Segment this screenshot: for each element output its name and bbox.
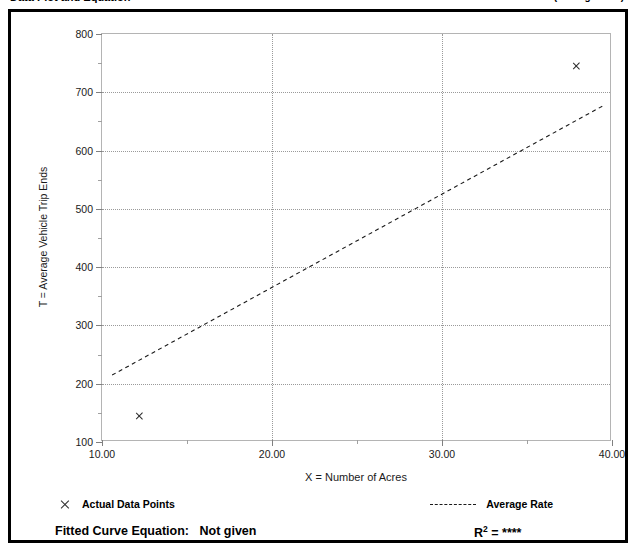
legend-item-average-rate: Average Rate [430, 498, 553, 510]
x-axis-tick-label: 20.00 [259, 448, 285, 460]
y-axis-tick-label: 500 [75, 203, 93, 215]
y-axis-tick-label: 100 [75, 436, 93, 448]
plot-area: 100200300400500600700800 10.0020.0030.00… [101, 33, 611, 441]
chart-frame: T = Average Vehicle Trip Ends 1002003004… [8, 9, 628, 543]
x-axis-label: X = Number of Acres [101, 471, 611, 483]
r-squared-prefix: R [474, 526, 483, 540]
x-axis-tick-label: 30.00 [429, 448, 455, 460]
x-axis-tick-label: 10.00 [89, 448, 115, 460]
y-axis-tick-label: 800 [75, 28, 93, 40]
x-axis-tick [272, 440, 273, 446]
chart-footer: Fitted Curve Equation: Not given R2 = **… [11, 524, 625, 546]
x-axis-minor-tick [357, 440, 358, 444]
average-rate-trendline [102, 34, 610, 440]
dashed-line-icon [430, 504, 476, 505]
fitted-curve-equation-value: Not given [199, 524, 256, 538]
x-axis-minor-tick [187, 440, 188, 444]
r-squared-number: = **** [491, 526, 521, 540]
x-axis-tick-label: 40.00 [599, 448, 625, 460]
x-axis-tick [442, 440, 443, 446]
legend-label-actual-data-points: Actual Data Points [82, 498, 175, 510]
legend-label-average-rate: Average Rate [486, 498, 553, 510]
y-axis-tick-label: 600 [75, 145, 93, 157]
x-axis-tick [612, 440, 613, 446]
chart-legend: Actual Data Points Average Rate [11, 498, 625, 522]
y-axis-tick-label: 700 [75, 86, 93, 98]
x-marker-icon [59, 499, 70, 510]
y-axis-tick-label: 400 [75, 261, 93, 273]
r-squared-value: R2 = **** [474, 524, 521, 540]
y-axis-tick-label: 200 [75, 378, 93, 390]
data-point-marker [572, 62, 581, 71]
x-axis-minor-tick [527, 440, 528, 444]
data-point-marker [135, 411, 144, 420]
legend-item-actual-data-points: Actual Data Points [59, 498, 175, 510]
fitted-curve-equation: Fitted Curve Equation: Not given [55, 524, 256, 538]
x-axis-tick [102, 440, 103, 446]
y-axis-label: T = Average Vehicle Trip Ends [37, 33, 51, 441]
fitted-curve-equation-label: Fitted Curve Equation: [55, 524, 189, 538]
chart-region: T = Average Vehicle Trip Ends 1002003004… [11, 12, 625, 490]
y-axis-tick-label: 300 [75, 319, 93, 331]
page-title: Data Plot and Equation [10, 0, 130, 3]
header-strip: Data Plot and Equation (Average Rate) [0, 0, 638, 9]
header-right-note: (Average Rate) [554, 0, 624, 2]
